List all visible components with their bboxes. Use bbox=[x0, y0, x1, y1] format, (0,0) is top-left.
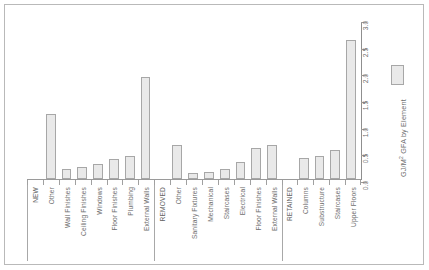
legend: GJ/M2 GFA by Element bbox=[387, 65, 421, 197]
bar[interactable] bbox=[346, 40, 356, 179]
y-tick-label: 1.5 bbox=[362, 101, 369, 110]
x-category-label: Floor Finishes bbox=[250, 185, 266, 263]
bar-slot bbox=[343, 19, 359, 179]
label-text: Substructure bbox=[318, 187, 325, 226]
x-category-label: Other bbox=[43, 185, 59, 263]
bar-slot bbox=[43, 19, 59, 179]
y-tick-label: 3.0 bbox=[362, 21, 369, 30]
label-text: Mechanical bbox=[206, 187, 213, 222]
label-text: RETAINED bbox=[286, 187, 293, 221]
bar[interactable] bbox=[77, 167, 87, 179]
bar-slot bbox=[248, 19, 264, 179]
bar-slot bbox=[296, 19, 312, 179]
group-slot bbox=[280, 19, 296, 179]
bar[interactable] bbox=[251, 148, 261, 179]
x-category-label: External Walls bbox=[266, 185, 282, 263]
label-text: Sanitary Fixtures bbox=[191, 187, 198, 239]
legend-swatch-icon bbox=[391, 65, 404, 85]
bar-slot bbox=[169, 19, 185, 179]
group-slot bbox=[154, 19, 170, 179]
bar[interactable] bbox=[330, 150, 340, 179]
plot-area bbox=[27, 19, 359, 179]
bar-slot bbox=[312, 19, 328, 179]
bar-slot bbox=[90, 19, 106, 179]
x-category-label: Other bbox=[170, 185, 186, 263]
bar-slot bbox=[122, 19, 138, 179]
bar[interactable] bbox=[125, 156, 135, 179]
label-text: External Walls bbox=[143, 187, 150, 231]
label-text: Floor Finishes bbox=[111, 187, 118, 231]
legend-label: GJ/M2 GFA by Element bbox=[398, 99, 408, 177]
x-category-label: Mechanical bbox=[202, 185, 218, 263]
x-category-label: Windows bbox=[91, 185, 107, 263]
y-tick-label: 0.5 bbox=[362, 154, 369, 163]
label-text: Plumbing bbox=[127, 187, 134, 216]
x-category-label: Staircases bbox=[329, 185, 345, 263]
bar[interactable] bbox=[46, 114, 56, 179]
y-tick-label: 2.0 bbox=[362, 74, 369, 83]
x-category-label: Sanitary Fixtures bbox=[186, 185, 202, 263]
bar[interactable] bbox=[141, 77, 151, 179]
label-text: Staircases bbox=[222, 187, 229, 219]
bar-slot bbox=[264, 19, 280, 179]
label-text: Ceiling Finishes bbox=[79, 187, 86, 236]
bar[interactable] bbox=[93, 164, 103, 179]
bar-slot bbox=[59, 19, 75, 179]
bar[interactable] bbox=[109, 159, 119, 179]
legend-label-main: GJ/M bbox=[399, 159, 408, 177]
bar-slot bbox=[106, 19, 122, 179]
label-text: Wall Finishes bbox=[63, 187, 70, 228]
label-text: Upper Floors bbox=[350, 187, 357, 227]
x-group-label: REMOVED bbox=[154, 185, 170, 263]
bar[interactable] bbox=[220, 169, 230, 179]
bar-slot bbox=[233, 19, 249, 179]
x-category-label: Substructure bbox=[313, 185, 329, 263]
legend-label-rest: GFA by Element bbox=[399, 99, 408, 156]
label-text: Windows bbox=[95, 187, 102, 215]
bar[interactable] bbox=[62, 169, 72, 179]
bar-slot bbox=[138, 19, 154, 179]
x-category-label: Columns bbox=[297, 185, 313, 263]
bar-series bbox=[27, 19, 359, 179]
bar[interactable] bbox=[267, 145, 277, 179]
legend-label-superscript: 2 bbox=[398, 156, 404, 159]
bar-slot bbox=[327, 19, 343, 179]
y-tick-label: 0.0 bbox=[362, 181, 369, 190]
x-group-label: NEW bbox=[27, 185, 43, 263]
chart-frame: NEWOtherWall FinishesCeiling FinishesWin… bbox=[4, 4, 424, 265]
label-text: NEW bbox=[31, 187, 38, 203]
x-category-label: Upper Floors bbox=[345, 185, 361, 263]
bar-slot bbox=[217, 19, 233, 179]
label-text: Floor Finishes bbox=[254, 187, 261, 231]
bar-slot bbox=[74, 19, 90, 179]
x-category-label: Wall Finishes bbox=[59, 185, 75, 263]
bar[interactable] bbox=[315, 156, 325, 179]
group-slot bbox=[27, 19, 43, 179]
label-text: Other bbox=[47, 187, 54, 204]
x-category-label: Floor Finishes bbox=[107, 185, 123, 263]
x-category-label: Plumbing bbox=[122, 185, 138, 263]
label-text: Columns bbox=[302, 187, 309, 214]
label-text: REMOVED bbox=[159, 187, 166, 221]
y-axis-tick-labels: 0.00.51.01.52.02.53.0 bbox=[365, 22, 383, 180]
y-tick-label: 2.5 bbox=[362, 47, 369, 56]
bar[interactable] bbox=[172, 145, 182, 179]
bar-slot bbox=[185, 19, 201, 179]
label-text: External Walls bbox=[270, 187, 277, 231]
label-text: Electrical bbox=[238, 187, 245, 215]
bar[interactable] bbox=[299, 158, 309, 179]
x-category-label: Electrical bbox=[234, 185, 250, 263]
x-category-label: Ceiling Finishes bbox=[75, 185, 91, 263]
x-category-label: External Walls bbox=[138, 185, 154, 263]
label-text: Staircases bbox=[334, 187, 341, 219]
bar-slot bbox=[201, 19, 217, 179]
y-tick-label: 1.0 bbox=[362, 127, 369, 136]
bar[interactable] bbox=[236, 162, 246, 179]
x-group-label: RETAINED bbox=[282, 185, 298, 263]
bar[interactable] bbox=[204, 172, 214, 179]
x-category-label: Staircases bbox=[218, 185, 234, 263]
label-text: Other bbox=[175, 187, 182, 204]
x-axis-labels: NEWOtherWall FinishesCeiling FinishesWin… bbox=[27, 185, 361, 263]
